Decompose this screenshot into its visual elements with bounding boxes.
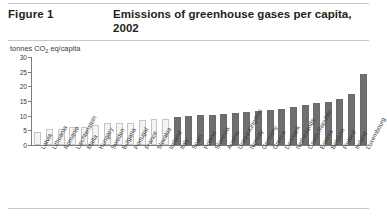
figure-title: Emissions of greenhouse gases per capita… (113, 8, 365, 35)
y-tick-label-30: 30 (20, 54, 27, 61)
bottom-divider (8, 208, 369, 209)
y-tick-mark (28, 116, 31, 117)
y-tick-mark (28, 130, 31, 131)
header-divider (8, 40, 369, 41)
y-tick-label-0: 0 (23, 142, 27, 149)
y-tick-mark (28, 86, 31, 87)
y-axis-label: tonnes CO2 eq/capita (10, 44, 80, 53)
y-tick-mark (28, 145, 31, 146)
top-divider (8, 3, 369, 4)
y-tick-label-20: 20 (20, 83, 27, 90)
figure-number: Figure 1 (8, 8, 54, 20)
x-axis-labels: LatviaLithuaniaRomaniaLiechtensteinMalta… (31, 147, 369, 209)
y-tick-mark (28, 57, 31, 58)
co2-subscript: 2 (45, 48, 48, 54)
y-tick-label-10: 10 (20, 112, 27, 119)
y-tick-label-5: 5 (23, 127, 27, 134)
y-tick-mark (28, 72, 31, 73)
y-tick-label-25: 25 (20, 68, 27, 75)
y-tick-mark (28, 101, 31, 102)
y-tick-label-15: 15 (20, 98, 27, 105)
figure-header: Figure 1 Emissions of greenhouse gases p… (8, 8, 369, 38)
